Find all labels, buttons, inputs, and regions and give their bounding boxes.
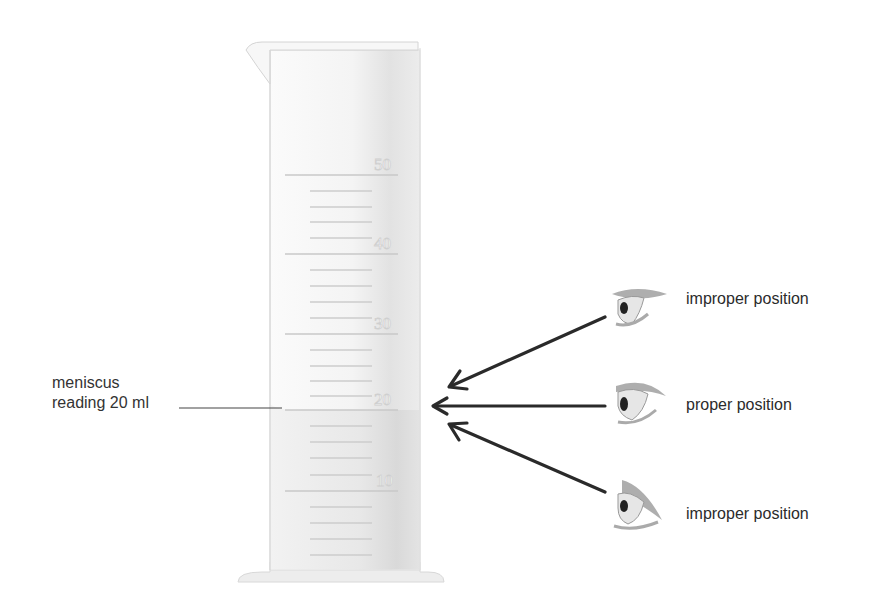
grad-label-40: 40 xyxy=(374,234,391,253)
graduated-cylinder xyxy=(238,42,444,582)
sight-arrows xyxy=(433,317,605,492)
eye-label-bottom: improper position xyxy=(686,505,809,523)
meniscus-label-line2: reading 20 ml xyxy=(52,393,149,413)
meniscus-label-line1: meniscus xyxy=(52,373,149,393)
grad-label-50: 50 xyxy=(374,155,391,174)
eye-label-top: improper position xyxy=(686,290,809,308)
arrow-from-above xyxy=(449,317,605,389)
eye-icon-middle xyxy=(616,383,666,423)
eye-label-middle: proper position xyxy=(686,396,792,414)
arrow-from-below xyxy=(449,423,605,492)
eye-icon-top xyxy=(612,289,667,325)
grad-label-30: 30 xyxy=(374,314,391,333)
diagram-stage: 50 40 30 20 10 xyxy=(0,0,891,606)
eye-icon-bottom xyxy=(614,480,662,528)
meniscus-label: meniscus reading 20 ml xyxy=(52,373,149,413)
grad-label-10: 10 xyxy=(376,471,393,490)
grad-label-20: 20 xyxy=(374,390,391,409)
arrow-level xyxy=(433,398,605,414)
